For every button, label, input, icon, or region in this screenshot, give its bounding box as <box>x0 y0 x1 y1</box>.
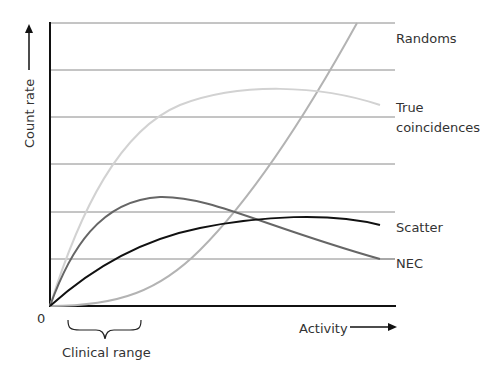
label-coincidences: coincidences <box>396 120 480 135</box>
label-nec: NEC <box>396 256 423 271</box>
label-true: True <box>395 100 424 115</box>
y-axis-label: Count rate <box>22 79 37 148</box>
label-scatter: Scatter <box>396 220 444 235</box>
x-arrow-icon <box>388 323 397 331</box>
series-nec <box>50 197 380 306</box>
clinical-range-brace <box>68 320 141 339</box>
series-scatter <box>50 217 380 306</box>
origin-label: 0 <box>37 311 45 326</box>
label-randoms: Randoms <box>396 31 457 46</box>
y-arrow-icon <box>25 24 33 33</box>
x-axis-label: Activity <box>299 321 348 336</box>
clinical-range-label: Clinical range <box>62 345 151 360</box>
chart: Randoms True coincidences Scatter NEC 0 … <box>0 0 489 377</box>
series-true-coincidences <box>50 89 380 306</box>
